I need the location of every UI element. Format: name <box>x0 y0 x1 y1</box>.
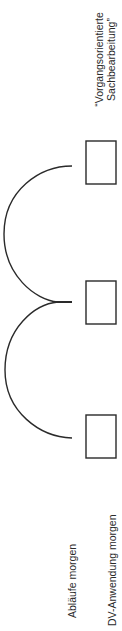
label-top-line1: “Vorgangsorientierte <box>94 3 106 116</box>
box-middle <box>86 281 116 324</box>
connector-arc-top <box>4 166 72 302</box>
label-top-line2: Sachbearbeitung” <box>106 3 118 116</box>
diagram-canvas: “Vorgangsorientierte Sachbearbeitung” Ab… <box>0 0 122 631</box>
box-bottom <box>86 415 116 458</box>
connector-arc-bottom <box>5 302 72 438</box>
label-vorgangsorientierte-sachbearbeitung: “Vorgangsorientierte Sachbearbeitung” <box>94 3 117 116</box>
box-top <box>86 141 116 184</box>
label-ablaeufe-morgen: Abläufe morgen <box>67 544 78 618</box>
label-dv-anwendung-morgen: DV-Anwendung morgen <box>107 515 118 627</box>
